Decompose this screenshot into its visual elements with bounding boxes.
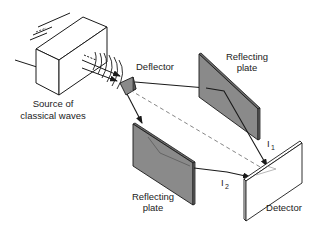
label-deflector: Deflector: [136, 61, 174, 72]
label-detector: Detector: [266, 202, 302, 213]
svg-text:I: I: [221, 177, 224, 188]
label-i1: I 1: [267, 138, 275, 151]
label-plate-top-line1: Reflecting: [226, 51, 268, 62]
svg-text:2: 2: [225, 183, 229, 190]
wave-source: [15, 13, 107, 95]
beam-deflector-to-bottom-plate: [127, 94, 142, 123]
beam-deflector-to-top-plate: [135, 82, 206, 88]
beam-bottom-plate-to-detector: [194, 168, 250, 177]
deflector: [120, 77, 136, 95]
label-source-line2: classical waves: [20, 110, 86, 121]
label-plate-bottom-line2: plate: [143, 202, 164, 213]
label-i2: I 2: [221, 177, 229, 190]
svg-text:I: I: [267, 138, 270, 149]
label-plate-bottom-line1: Reflecting: [132, 191, 174, 202]
label-source-line1: Source of: [33, 98, 74, 109]
svg-text:1: 1: [271, 144, 275, 151]
label-plate-top-line2: plate: [237, 62, 258, 73]
diagram-canvas: Source of classical waves Deflector Refl…: [0, 0, 322, 235]
